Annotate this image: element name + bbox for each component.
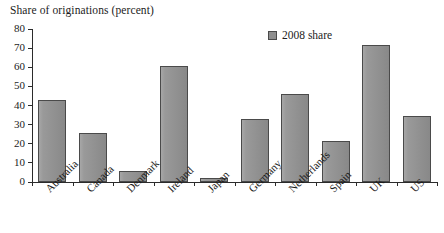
x-tick-mark (235, 182, 236, 186)
x-tick-mark (32, 182, 33, 186)
y-tick-label: 30 (14, 118, 25, 131)
x-tick-mark (275, 182, 276, 186)
bar-chart-figure: Share of originations (percent) 01020304… (0, 0, 444, 233)
x-tick-mark (316, 182, 317, 186)
plot-area (32, 29, 437, 182)
bar-series-2008-share (32, 29, 437, 182)
x-tick-mark (397, 182, 398, 186)
bar-ireland (160, 66, 188, 182)
x-tick-mark (113, 182, 114, 186)
y-tick-label: 60 (14, 60, 25, 73)
y-tick-label: 10 (14, 156, 25, 169)
y-tick-label: 0 (20, 175, 26, 188)
y-tick-label: 40 (14, 99, 25, 112)
legend-swatch-icon (268, 31, 277, 40)
y-tick-label: 20 (14, 137, 25, 150)
y-tick-label: 50 (14, 79, 25, 92)
x-tick-mark (194, 182, 195, 186)
bar-us (403, 116, 431, 182)
chart-legend: 2008 share (268, 29, 332, 41)
x-tick-mark (356, 182, 357, 186)
x-tick-mark (154, 182, 155, 186)
x-tick-mark (437, 182, 438, 186)
y-tick-label: 80 (14, 22, 25, 35)
legend-label: 2008 share (282, 29, 332, 41)
chart-title: Share of originations (percent) (10, 4, 154, 16)
bar-uk (362, 45, 390, 182)
x-tick-mark (73, 182, 74, 186)
y-tick-label: 70 (14, 41, 25, 54)
